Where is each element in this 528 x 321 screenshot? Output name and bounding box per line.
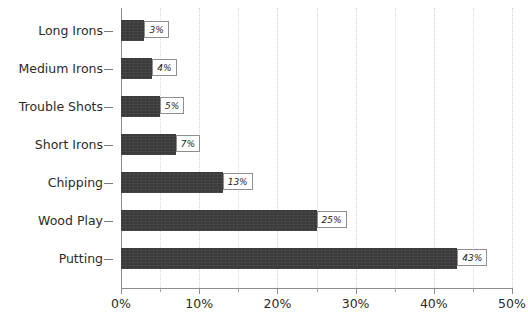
bar-row: 43% [121,248,512,269]
x-axis-tick-0 [121,288,122,294]
gridline-50 [512,8,513,288]
bar-row: 3% [121,20,512,41]
x-axis-tick-label-10: 10% [185,296,213,311]
bar-value-label: 25% [317,211,347,228]
x-axis-tick-20 [277,288,278,294]
bar-value-label: 13% [223,173,253,190]
x-axis-tick-40 [434,288,435,294]
bar-row: 5% [121,96,512,117]
y-axis-tick [104,183,113,184]
bar-value-label: 43% [457,249,487,266]
bar[interactable] [121,96,160,117]
y-axis-tick [104,259,113,260]
x-axis-tick-label-50: 50% [498,296,526,311]
bar-value-label: 3% [144,21,168,38]
x-axis-tick-30 [356,288,357,294]
x-axis-tick-label-20: 20% [263,296,291,311]
y-axis-label-wood-play: Wood Play [38,210,103,231]
plot-area: 3%4%5%7%13%25%43% [121,8,512,288]
y-axis-label-short-irons: Short Irons [35,134,103,155]
x-axis-tick-label-30: 30% [342,296,370,311]
bar-row: 4% [121,58,512,79]
y-axis-label-medium-irons: Medium Irons [18,58,103,79]
x-axis-tick-50 [512,288,513,294]
bar-value-label: 5% [160,97,184,114]
x-axis-minor-tick-15 [238,288,239,292]
x-axis-tick-label-0: 0% [111,296,131,311]
x-axis-minor-tick-25 [317,288,318,292]
x-axis-tick-10 [199,288,200,294]
bar-row: 13% [121,172,512,193]
bar[interactable] [121,134,176,155]
x-axis-minor-tick-45 [473,288,474,292]
x-axis-tick-label-40: 40% [420,296,448,311]
y-axis-label-trouble-shots: Trouble Shots [19,96,103,117]
y-axis-tick [104,31,113,32]
y-axis-category-labels: Long IronsMedium IronsTrouble ShotsShort… [0,8,113,288]
bar-chart: Long IronsMedium IronsTrouble ShotsShort… [0,0,528,321]
x-axis-minor-tick-35 [395,288,396,292]
bar-row: 25% [121,210,512,231]
y-axis-label-chipping: Chipping [48,172,103,193]
bar[interactable] [121,58,152,79]
y-axis-tick [104,145,113,146]
bar[interactable] [121,248,457,269]
bar[interactable] [121,172,223,193]
bar-value-label: 4% [152,59,176,76]
y-axis-tick [104,221,113,222]
bar-row: 7% [121,134,512,155]
y-axis-label-long-irons: Long Irons [38,20,103,41]
bar[interactable] [121,20,144,41]
bar-series: 3%4%5%7%13%25%43% [121,8,512,288]
y-axis-tick [104,107,113,108]
x-axis-minor-tick-5 [160,288,161,292]
y-axis-label-putting: Putting [59,248,103,269]
bar-value-label: 7% [176,135,200,152]
y-axis-tick [104,69,113,70]
bar[interactable] [121,210,317,231]
